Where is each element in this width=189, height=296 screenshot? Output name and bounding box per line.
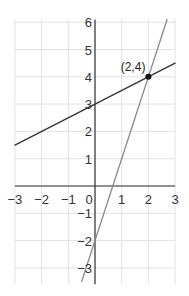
x-tick-label: 0 bbox=[85, 192, 92, 207]
y-tick-label: −1 bbox=[77, 206, 92, 221]
y-tick-label: −2 bbox=[77, 234, 92, 249]
chart: −3−2−10123−3−2−1123456 (2,4) bbox=[0, 0, 189, 296]
axes bbox=[15, 19, 175, 284]
intersection-point bbox=[145, 74, 151, 80]
intersection-label: (2,4) bbox=[121, 60, 146, 74]
x-tick-label: −1 bbox=[61, 192, 76, 207]
x-tick-label: 1 bbox=[118, 192, 125, 207]
x-tick-label: 3 bbox=[171, 192, 178, 207]
x-tick-label: −3 bbox=[7, 192, 22, 207]
y-tick-label: 1 bbox=[85, 152, 92, 167]
y-tick-label: 4 bbox=[85, 70, 92, 85]
y-tick-label: 3 bbox=[85, 97, 92, 112]
y-tick-label: 5 bbox=[85, 43, 92, 58]
y-tick-label: −3 bbox=[77, 261, 92, 276]
tick-labels: −3−2−10123−3−2−1123456 bbox=[7, 15, 178, 276]
y-tick-label: 2 bbox=[85, 124, 92, 139]
x-tick-label: 2 bbox=[145, 192, 152, 207]
y-tick-label: 6 bbox=[85, 15, 92, 30]
x-tick-label: −2 bbox=[34, 192, 49, 207]
